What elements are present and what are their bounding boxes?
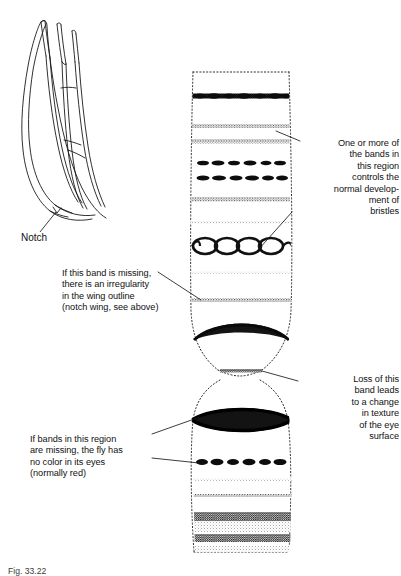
- annotation-eye-texture: Loss of this band leads to a change in t…: [295, 374, 399, 442]
- figure-container: Notch: [0, 0, 401, 576]
- leader-eye-texture: [262, 371, 298, 381]
- annotation-eye-color: If bands in this region are missing, the…: [30, 434, 190, 480]
- leader-bristles-b: [258, 212, 292, 250]
- annotation-bristles: One or more of the bands in this region …: [291, 138, 399, 218]
- annotation-notch-band: If this band is missing, there is an irr…: [62, 268, 212, 314]
- figure-caption: Fig. 33.22: [8, 566, 248, 576]
